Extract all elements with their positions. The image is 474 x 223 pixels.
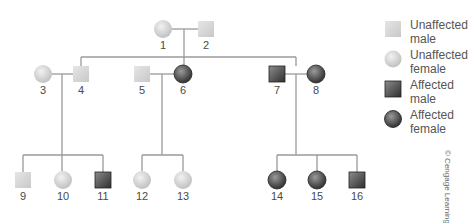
individual-14-affected-female bbox=[268, 171, 286, 189]
legend-item-unaffected-male: Unaffected male bbox=[384, 18, 474, 48]
individual-2-unaffected-male bbox=[198, 21, 214, 37]
affected-male-square-icon bbox=[384, 80, 402, 98]
label-13: 13 bbox=[177, 190, 189, 202]
individual-12-unaffected-female bbox=[133, 171, 151, 189]
individual-10-unaffected-female bbox=[54, 171, 72, 189]
legend-item-unaffected-female: Unaffected female bbox=[384, 48, 474, 78]
legend-label-line1: Affected bbox=[410, 78, 454, 92]
label-8: 8 bbox=[313, 84, 319, 96]
label-2: 2 bbox=[203, 39, 209, 51]
legend-item-affected-male: Affected male bbox=[384, 78, 474, 108]
legend-label-line2: male bbox=[410, 32, 468, 46]
legend-label-line1: Unaffected bbox=[410, 18, 468, 32]
unaffected-male-square-icon bbox=[384, 20, 402, 38]
legend: Unaffected male Unaffected female Affect… bbox=[384, 18, 474, 138]
individual-7-affected-male bbox=[269, 66, 285, 82]
label-14: 14 bbox=[271, 190, 283, 202]
individual-16-affected-male bbox=[349, 172, 365, 188]
label-10: 10 bbox=[57, 190, 69, 202]
label-15: 15 bbox=[311, 190, 323, 202]
individual-8-affected-female bbox=[307, 65, 325, 83]
label-4: 4 bbox=[78, 84, 84, 96]
individual-11-affected-male bbox=[95, 172, 111, 188]
label-1: 1 bbox=[160, 39, 166, 51]
individual-9-unaffected-male bbox=[15, 172, 31, 188]
individual-5-unaffected-male bbox=[134, 66, 150, 82]
legend-label-line2: male bbox=[410, 92, 454, 106]
label-9: 9 bbox=[20, 190, 26, 202]
legend-label-line2: female bbox=[410, 62, 468, 76]
individual-3-unaffected-female bbox=[34, 65, 52, 83]
individual-6-affected-female bbox=[174, 65, 192, 83]
individual-15-affected-female bbox=[308, 171, 326, 189]
legend-label-line1: Unaffected bbox=[410, 48, 468, 62]
pedigree-lines bbox=[23, 29, 357, 172]
affected-female-circle-icon bbox=[384, 110, 402, 128]
label-11: 11 bbox=[97, 190, 108, 202]
copyright-credit: © Cengage Learning bbox=[443, 150, 452, 223]
legend-item-affected-female: Affected female bbox=[384, 108, 474, 138]
individual-1-unaffected-female bbox=[154, 20, 172, 38]
label-7: 7 bbox=[274, 84, 280, 96]
individual-4-unaffected-male bbox=[73, 66, 89, 82]
label-5: 5 bbox=[139, 84, 145, 96]
label-16: 16 bbox=[351, 190, 363, 202]
label-12: 12 bbox=[136, 190, 148, 202]
label-6: 6 bbox=[180, 84, 186, 96]
individual-13-unaffected-female bbox=[174, 171, 192, 189]
label-3: 3 bbox=[40, 84, 46, 96]
legend-label-line1: Affected bbox=[410, 108, 454, 122]
unaffected-female-circle-icon bbox=[384, 50, 402, 68]
legend-label-line2: female bbox=[410, 122, 454, 136]
